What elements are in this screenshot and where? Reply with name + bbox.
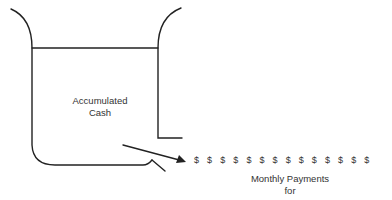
payment-symbol: $ bbox=[194, 155, 207, 165]
payment-symbol: $ bbox=[273, 155, 286, 165]
monthly-payments-label: Monthly Payments for bbox=[210, 173, 370, 197]
payment-symbol: $ bbox=[338, 155, 351, 165]
label-line-1: Monthly Payments bbox=[210, 173, 370, 185]
label-line-1: Accumulated bbox=[55, 95, 145, 107]
payment-stream: $ $ $ $ $ $ $ $ $ $ $ $ $ $ bbox=[194, 155, 377, 165]
flow-arrow-line bbox=[123, 145, 183, 161]
payment-symbol: $ bbox=[286, 155, 299, 165]
payment-symbol: $ bbox=[364, 155, 377, 165]
payment-symbol: $ bbox=[259, 155, 272, 165]
flow-arrow-head bbox=[176, 155, 186, 163]
bucket-spout-lip bbox=[152, 160, 165, 171]
payment-symbol: $ bbox=[207, 155, 220, 165]
payment-symbol: $ bbox=[351, 155, 364, 165]
accumulated-cash-label: Accumulated Cash bbox=[55, 95, 145, 119]
payment-symbol: $ bbox=[233, 155, 246, 165]
payment-symbol: $ bbox=[312, 155, 325, 165]
payment-symbol: $ bbox=[220, 155, 233, 165]
bucket-right-wall bbox=[158, 8, 182, 138]
payment-symbol: $ bbox=[325, 155, 338, 165]
label-line-2: Cash bbox=[55, 107, 145, 119]
payment-symbol: $ bbox=[299, 155, 312, 165]
bucket-left-wall bbox=[11, 9, 152, 165]
label-line-2: for bbox=[210, 185, 370, 197]
payment-symbol: $ bbox=[246, 155, 259, 165]
